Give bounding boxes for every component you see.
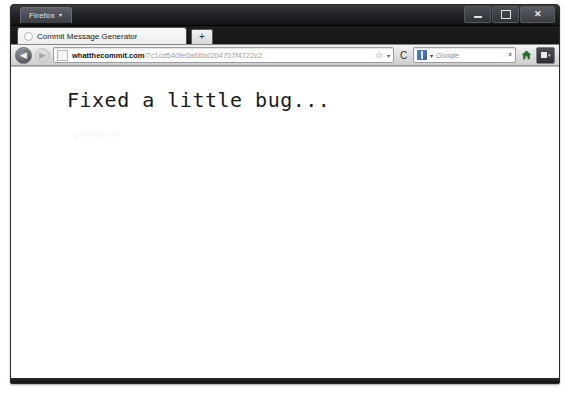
- close-icon: ✕: [534, 10, 542, 19]
- maximize-icon: [501, 10, 511, 19]
- new-tab-button[interactable]: +: [191, 29, 213, 44]
- page-content-area: Fixed a little bug... permalink: [11, 66, 559, 378]
- url-host: whatthecommit.com: [72, 51, 145, 60]
- back-button[interactable]: ◀: [15, 47, 32, 64]
- chevron-down-icon[interactable]: ▾: [387, 52, 390, 59]
- arrow-left-icon: ◀: [20, 51, 27, 60]
- url-path: /7c1cd540fe0a66b0204707f4722c2: [145, 51, 263, 60]
- search-bar[interactable]: ▾ Google ⌕: [413, 47, 516, 63]
- home-button[interactable]: [519, 47, 533, 63]
- reload-icon: C: [400, 50, 407, 61]
- url-text: whatthecommit.com/7c1cd540fe0a66b0204707…: [72, 51, 371, 60]
- chevron-down-icon: ▾: [59, 8, 62, 23]
- bookmark-star-icon[interactable]: ☆: [375, 50, 383, 60]
- tab-strip: Commit Message Generator +: [11, 26, 559, 44]
- chevron-down-icon[interactable]: ▾: [430, 52, 433, 59]
- desktop-background: Firefox▾ ✕ Commit Message Generator: [0, 0, 571, 395]
- favicon-placeholder-icon: [24, 32, 33, 41]
- close-button[interactable]: ✕: [520, 6, 555, 23]
- home-icon: [521, 50, 532, 60]
- arrow-right-icon: ▶: [39, 51, 46, 60]
- firefox-menu-label: Firefox: [29, 11, 55, 20]
- window-bottom-edge: [11, 378, 559, 384]
- tab-title: Commit Message Generator: [37, 32, 137, 41]
- extension-button[interactable]: ▾: [536, 47, 555, 64]
- search-input[interactable]: Google: [436, 52, 505, 59]
- minimize-icon: [474, 16, 482, 18]
- window-titlebar: Firefox▾ ✕: [11, 5, 559, 26]
- reload-button[interactable]: C: [397, 47, 410, 63]
- permalink-link[interactable]: permalink: [74, 130, 120, 139]
- navigation-toolbar: ◀ ▶ whatthecommit.com/7c1cd540fe0a66b020…: [11, 44, 559, 66]
- plus-icon: +: [199, 32, 205, 42]
- firefox-menu-button[interactable]: Firefox▾: [20, 7, 72, 23]
- tab-commit-message-generator[interactable]: Commit Message Generator: [17, 27, 187, 44]
- window-controls: ✕: [464, 6, 555, 23]
- extension-icon: [541, 52, 547, 58]
- minimize-button[interactable]: [464, 6, 491, 23]
- url-bar[interactable]: whatthecommit.com/7c1cd540fe0a66b0204707…: [53, 47, 394, 63]
- chevron-down-icon: ▾: [548, 52, 551, 58]
- commit-message-text: Fixed a little bug...: [67, 88, 330, 112]
- maximize-button[interactable]: [492, 6, 519, 23]
- site-identity-icon[interactable]: [57, 50, 68, 61]
- search-icon[interactable]: ⌕: [508, 50, 512, 60]
- forward-button[interactable]: ▶: [35, 48, 50, 63]
- firefox-browser-window: Firefox▾ ✕ Commit Message Generator: [10, 4, 560, 384]
- search-engine-icon[interactable]: [417, 50, 427, 60]
